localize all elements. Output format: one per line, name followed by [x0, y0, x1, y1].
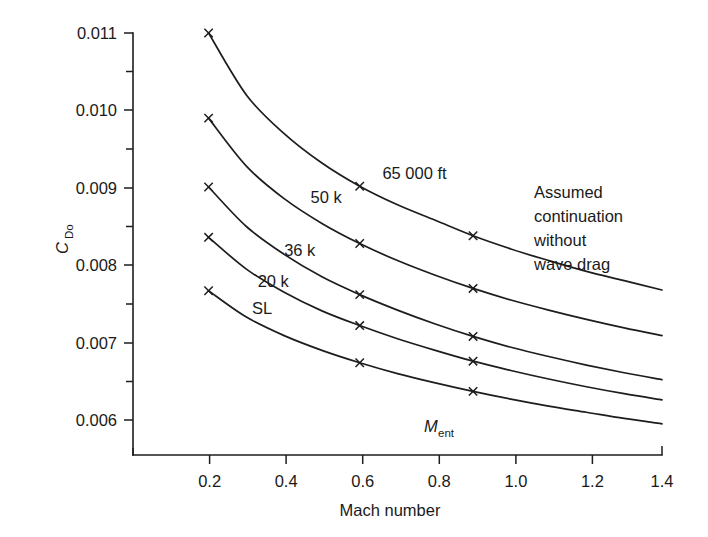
curve-label-sl: SL [252, 299, 272, 317]
y-axis-title: C Do [53, 224, 75, 254]
y-axis-minor-ticks [126, 72, 133, 382]
y-axis-title-sub: Do [63, 224, 75, 239]
y-tick-label: 0.006 [76, 411, 117, 429]
wave-drag-line: without [533, 231, 587, 249]
x-tick-label: 0.6 [351, 472, 374, 490]
x-tick-label: 0.8 [428, 472, 451, 490]
m-ent-annotation: M ent [424, 417, 455, 439]
x-tick-labels: 0.2 0.4 0.6 0.8 1.0 1.2 1.4 [198, 472, 673, 490]
curve-50k [209, 118, 662, 335]
x-tick-label: 0.4 [275, 472, 298, 490]
wave-drag-annotation: Assumed continuation without wave drag [533, 183, 623, 273]
y-tick-label: 0.008 [76, 256, 117, 274]
x-tick-label: 0.2 [198, 472, 221, 490]
x-tick-label: 1.2 [581, 472, 604, 490]
y-tick-labels: 0.011 0.010 0.009 0.008 0.007 0.006 [76, 24, 117, 429]
chart-figure: 0.011 0.010 0.009 0.008 0.007 0.006 0.2 … [0, 0, 708, 537]
chart-svg: 0.011 0.010 0.009 0.008 0.007 0.006 0.2 … [0, 0, 708, 537]
wave-drag-line: continuation [534, 207, 623, 225]
wave-drag-line: Assumed [534, 183, 603, 201]
data-point-markers [204, 29, 477, 396]
m-ent-main: M [424, 417, 438, 435]
curve-label-50k: 50 k [311, 188, 343, 206]
curve-65000ft [209, 33, 662, 290]
y-tick-label: 0.009 [76, 179, 117, 197]
curve-label-65000ft: 65 000 ft [382, 164, 447, 182]
curve-label-20k: 20 k [258, 272, 290, 290]
x-axis-title: Mach number [340, 501, 441, 519]
x-tick-label: 1.4 [651, 472, 674, 490]
curve-labels: 65 000 ft 50 k 36 k 20 k SL [252, 164, 447, 317]
x-tick-label: 1.0 [504, 472, 527, 490]
curve-label-36k: 36 k [284, 241, 316, 259]
y-tick-label: 0.010 [76, 101, 117, 119]
curve-sl [209, 291, 662, 424]
wave-drag-line: wave drag [533, 255, 610, 273]
m-ent-sub: ent [438, 427, 455, 439]
y-tick-label: 0.007 [76, 334, 117, 352]
curves [209, 33, 662, 424]
y-tick-label: 0.011 [77, 24, 117, 42]
y-axis-title-main: C [53, 242, 71, 254]
